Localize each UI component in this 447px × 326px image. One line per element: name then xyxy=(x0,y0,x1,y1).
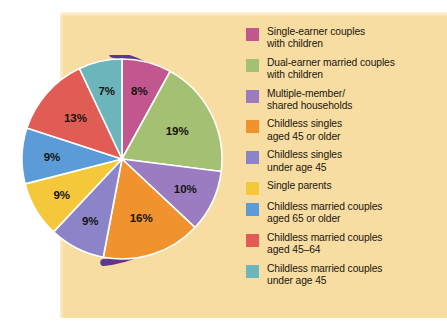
legend-item-label: Single parents xyxy=(267,180,331,192)
legend-label-line-2: aged 65 or older xyxy=(267,213,382,225)
legend-color-swatch xyxy=(246,59,259,72)
legend-label-line-1: Single parents xyxy=(267,180,331,191)
legend-color-swatch xyxy=(246,90,259,103)
legend-color-swatch xyxy=(246,265,259,278)
legend-color-swatch xyxy=(246,151,259,164)
legend-label-line-2: under age 45 xyxy=(267,275,382,287)
legend-item-label: Single-earner coupleswith children xyxy=(267,26,365,51)
legend-item: Childless singlesaged 45 or older xyxy=(246,118,442,143)
pie-slice-value-label: 16% xyxy=(130,212,153,224)
legend-label-line-2: aged 45 or older xyxy=(267,131,342,143)
legend-item-label: Childless singlesaged 45 or older xyxy=(267,118,342,143)
legend-item: Single-earner coupleswith children xyxy=(246,26,442,51)
legend-item: Childless married couplesaged 45–64 xyxy=(246,232,442,257)
legend-item-label: Childless married couplesaged 45–64 xyxy=(267,232,382,257)
legend-color-swatch xyxy=(246,234,259,247)
legend-color-swatch xyxy=(246,120,259,133)
legend-label-line-1: Dual-earner married couples xyxy=(267,57,395,68)
legend-item: Childless married couplesunder age 45 xyxy=(246,263,442,288)
legend-item: Single parents xyxy=(246,180,442,195)
legend-label-line-2: under age 45 xyxy=(267,162,342,174)
pie-slice-value-label: 13% xyxy=(64,112,87,124)
pie-slice-value-label: 19% xyxy=(166,125,189,137)
chart-legend: Single-earner coupleswith childrenDual-e… xyxy=(246,26,442,294)
legend-color-swatch xyxy=(246,203,259,216)
legend-label-line-2: aged 45–64 xyxy=(267,244,382,256)
pie-slice-value-label: 9% xyxy=(44,151,61,163)
legend-label-line-1: Childless singles xyxy=(267,149,342,160)
legend-item: Multiple-member/shared households xyxy=(246,88,442,113)
pie-chart-svg: 8%19%10%16%9%9%9%13%7% xyxy=(14,55,230,271)
legend-item: Childless married couplesaged 65 or olde… xyxy=(246,201,442,226)
legend-color-swatch xyxy=(246,182,259,195)
legend-color-swatch xyxy=(246,28,259,41)
legend-label-line-2: shared households xyxy=(267,100,352,112)
legend-item: Dual-earner married coupleswith children xyxy=(246,57,442,82)
pie-chart-figure: 8%19%10%16%9%9%9%13%7% Single-earner cou… xyxy=(0,0,447,326)
pie-slice-value-label: 9% xyxy=(53,189,70,201)
pie-slice-value-label: 10% xyxy=(174,183,197,195)
legend-item-label: Dual-earner married coupleswith children xyxy=(267,57,395,82)
legend-label-line-2: with children xyxy=(267,38,365,50)
legend-item-label: Childless married couplesaged 65 or olde… xyxy=(267,201,382,226)
legend-label-line-1: Childless married couples xyxy=(267,232,382,243)
pie-slice-value-label: 7% xyxy=(98,85,115,97)
pie-slice-value-label: 9% xyxy=(82,215,99,227)
legend-label-line-1: Childless married couples xyxy=(267,263,382,274)
legend-label-line-1: Multiple-member/ xyxy=(267,88,345,99)
pie-chart: 8%19%10%16%9%9%9%13%7% xyxy=(14,55,230,271)
legend-item-label: Childless singlesunder age 45 xyxy=(267,149,342,174)
legend-item-label: Multiple-member/shared households xyxy=(267,88,352,113)
legend-item: Childless singlesunder age 45 xyxy=(246,149,442,174)
pie-slice-value-label: 8% xyxy=(131,85,148,97)
legend-label-line-1: Childless married couples xyxy=(267,201,382,212)
legend-label-line-1: Single-earner couples xyxy=(267,26,365,37)
legend-item-label: Childless married couplesunder age 45 xyxy=(267,263,382,288)
legend-label-line-2: with children xyxy=(267,69,395,81)
legend-label-line-1: Childless singles xyxy=(267,118,342,129)
